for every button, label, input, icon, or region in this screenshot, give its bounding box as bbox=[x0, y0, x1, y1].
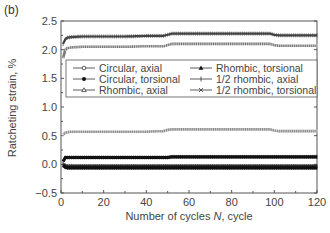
series-layer bbox=[63, 32, 317, 170]
series-rhombic-axial bbox=[63, 128, 317, 136]
ratcheting-strain-chart: −0.50.00.51.01.52.02.5 020406080100120 C… bbox=[0, 0, 330, 233]
x-tick-label: 100 bbox=[265, 196, 283, 208]
legend: Circular, axialCircular, torsionalRhombi… bbox=[66, 60, 317, 97]
x-tick-label: 0 bbox=[58, 196, 64, 208]
y-tick-label: 1.0 bbox=[42, 101, 57, 113]
series-circular-torsional bbox=[63, 155, 317, 164]
y-tick-label: 1.5 bbox=[42, 72, 57, 84]
x-tick-label: 120 bbox=[308, 196, 326, 208]
x-tick-label: 20 bbox=[98, 196, 110, 208]
series-circular-axial bbox=[63, 42, 317, 60]
y-tick-label: 0.0 bbox=[42, 158, 57, 170]
y-tick-label: 2.0 bbox=[42, 44, 57, 56]
x-tick-label: 80 bbox=[226, 196, 238, 208]
legend-label: Rhombic, axial bbox=[99, 84, 168, 96]
y-tick-label: 2.5 bbox=[42, 15, 57, 27]
y-axis-title: Ratcheting strain, % bbox=[6, 59, 18, 158]
legend-label: 1/2 rhombic, torsional bbox=[216, 84, 316, 96]
y-tick-label: 0.5 bbox=[42, 130, 57, 142]
x-tick-label: 60 bbox=[183, 196, 195, 208]
x-tick-label: 40 bbox=[140, 196, 152, 208]
y-tick-label: −0.5 bbox=[35, 187, 57, 199]
x-axis-title: Number of cycles N, cycle bbox=[125, 210, 252, 222]
